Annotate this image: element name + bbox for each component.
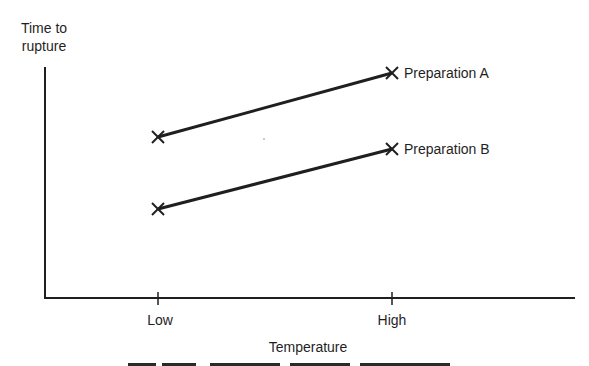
series-preparation-a: Preparation A bbox=[152, 65, 489, 143]
y-axis-label-line1: Time to bbox=[21, 20, 67, 36]
series-label-a: Preparation A bbox=[404, 65, 489, 81]
x-tick-label-low: Low bbox=[147, 312, 174, 328]
x-axis-label: Temperature bbox=[269, 339, 348, 355]
speck bbox=[263, 138, 265, 140]
series-label-b: Preparation B bbox=[404, 141, 490, 157]
x-tick-label-high: High bbox=[378, 312, 407, 328]
y-axis-label-line2: rupture bbox=[22, 38, 67, 54]
series-preparation-b: Preparation B bbox=[152, 141, 490, 215]
chart: Time to rupture Low High Temperature Pre… bbox=[0, 0, 589, 366]
